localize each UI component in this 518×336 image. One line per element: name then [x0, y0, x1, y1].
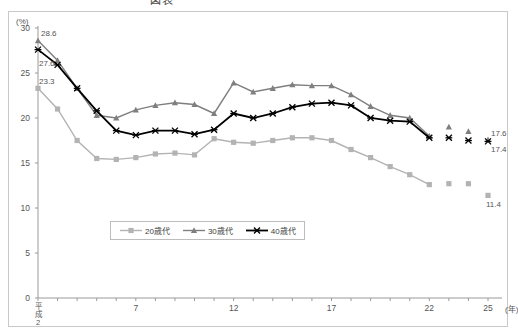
legend-item-40歳代[interactable]: 40歳代: [246, 225, 296, 236]
legend-label: 20歳代: [145, 225, 170, 236]
legend-item-30歳代[interactable]: 30歳代: [183, 225, 233, 236]
line-chart: (%) (年) 051015202530 平成2712172225 28.627…: [0, 0, 518, 336]
chart-canvas: [0, 0, 518, 336]
y-axis-tick-label: 5: [12, 248, 30, 258]
y-axis-tick-label: 25: [12, 68, 30, 78]
y-axis-tick-label: 0: [12, 293, 30, 303]
era-year: 2: [36, 318, 40, 327]
y-axis-tick-label: 30: [12, 23, 30, 33]
series-20歳代: [35, 86, 490, 198]
y-axis-tick-label: 20: [12, 113, 30, 123]
x-axis-tick-label-era: 平成2: [33, 303, 43, 327]
legend-marker-square-icon: [120, 225, 142, 236]
start-label-30s: 28.6: [41, 29, 57, 38]
start-label-20s: 23.3: [39, 77, 55, 86]
x-axis-tick-label: 22: [420, 303, 438, 313]
x-axis-tick-label: 12: [225, 303, 243, 313]
legend-label: 40歳代: [271, 225, 296, 236]
x-axis-tick-label: 25: [479, 303, 497, 313]
end-label-20s: 11.4: [486, 200, 501, 209]
y-axis-tick-label: 10: [12, 203, 30, 213]
legend-label: 30歳代: [208, 225, 233, 236]
legend-marker-cross-icon: [246, 225, 268, 236]
y-axis-tick-label: 15: [12, 158, 30, 168]
x-axis-tick-label: 17: [322, 303, 340, 313]
start-label-40s: 27.6: [39, 59, 55, 68]
legend-item-20歳代[interactable]: 20歳代: [120, 225, 170, 236]
end-label-30s: 17.6: [491, 129, 507, 138]
x-axis-unit-label: (年): [505, 303, 518, 314]
x-axis-tick-label: 7: [127, 303, 145, 313]
legend-marker-triangle-icon: [183, 225, 205, 236]
chart-legend: 20歳代30歳代40歳代: [110, 221, 305, 240]
end-label-40s: 17.4: [491, 145, 507, 154]
series-30歳代: [35, 37, 491, 142]
